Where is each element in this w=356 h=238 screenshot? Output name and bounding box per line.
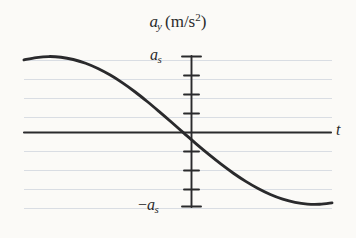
y-axis-bottom-label-minus: − xyxy=(138,196,147,213)
x-axis-label: t xyxy=(336,122,340,138)
axis-title-close-paren: ) xyxy=(201,12,207,31)
y-axis-bottom-label-symbol: a xyxy=(147,196,155,213)
gridlines xyxy=(24,61,332,209)
y-axis-bottom-tick-label: −as xyxy=(138,197,159,215)
axis-title: ay(m/s2) xyxy=(0,12,356,32)
acceleration-curve xyxy=(24,57,332,205)
axis-title-subscript: y xyxy=(157,20,162,32)
y-axis-bottom-label-subscript: s xyxy=(155,203,159,215)
axis-title-units: m/s xyxy=(171,12,196,31)
y-axis-top-label-subscript: s xyxy=(158,53,162,65)
figure-container: ay(m/s2) as −as t xyxy=(0,0,356,238)
plot-canvas xyxy=(0,0,356,238)
y-axis-top-tick-label: as xyxy=(150,47,162,65)
y-axis-top-label-symbol: a xyxy=(150,46,158,63)
